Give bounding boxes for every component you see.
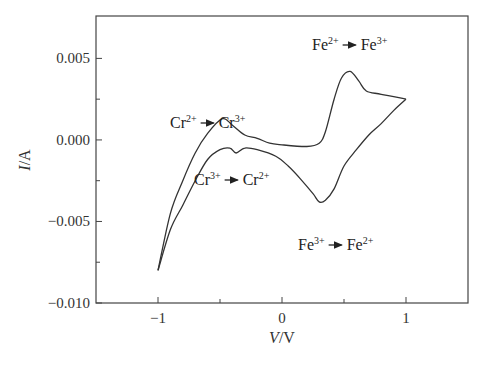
x-axis-title: V/V xyxy=(269,329,295,346)
plot-frame xyxy=(96,16,468,303)
y-tick-label: −0.010 xyxy=(48,295,90,311)
annotation-label: Cr3+ xyxy=(194,170,221,188)
y-tick-label: −0.005 xyxy=(48,213,90,229)
annotation-label: Cr2+ xyxy=(170,113,197,131)
y-tick-label: 0.000 xyxy=(56,132,90,148)
annotation-label: Fe3+ xyxy=(298,235,325,253)
x-tick-label: 1 xyxy=(402,310,410,326)
annotation-label: Cr2+ xyxy=(243,170,270,188)
annotation-label: Fe2+ xyxy=(347,235,374,253)
y-tick-label: 0.005 xyxy=(56,50,90,66)
x-axis: −101 xyxy=(150,297,410,326)
x-tick-label: 0 xyxy=(278,310,286,326)
y-axis: 0.0050.000−0.005−0.010 xyxy=(48,50,102,311)
cyclic-voltammogram-chart: 0.0050.000−0.005−0.010 −101 V/V I/A Cr2+… xyxy=(0,0,479,374)
annotation-label: Cr3+ xyxy=(219,113,246,131)
x-tick-label: −1 xyxy=(150,310,166,326)
y-axis-title: I/A xyxy=(16,149,33,172)
annotation-label: Fe2+ xyxy=(312,35,339,53)
annotation-label: Fe3+ xyxy=(361,35,388,53)
